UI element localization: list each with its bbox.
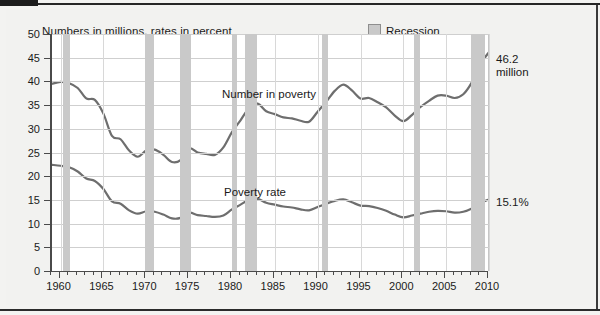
x-tick-minor <box>221 271 222 275</box>
recession-band <box>245 34 257 271</box>
x-tick-major <box>230 271 231 278</box>
recession-band <box>63 34 70 271</box>
gridline <box>52 176 489 177</box>
x-tick-minor <box>93 271 94 275</box>
y-tick <box>44 271 50 272</box>
x-tick-minor <box>290 271 291 275</box>
x-axis-label: 2005 <box>432 280 456 292</box>
line-number-in-poverty <box>52 52 489 162</box>
y-axis-label: 40 <box>14 75 40 87</box>
y-axis-label: 25 <box>14 147 40 159</box>
x-tick-minor <box>136 271 137 275</box>
x-tick-minor <box>239 271 240 275</box>
y-tick <box>44 34 50 35</box>
x-axis-label: 1995 <box>346 280 370 292</box>
y-tick <box>44 81 50 82</box>
end-label-number-unit: million <box>496 66 529 79</box>
x-tick-minor <box>307 271 308 275</box>
x-tick-minor <box>204 271 205 275</box>
x-tick-minor <box>127 271 128 275</box>
y-axis-label: 0 <box>14 265 40 277</box>
gridline <box>52 224 489 225</box>
x-tick-minor <box>436 271 437 275</box>
x-tick-minor <box>384 271 385 275</box>
gridline <box>52 81 489 82</box>
gridline <box>52 34 489 35</box>
page-top-rule <box>38 3 600 5</box>
x-tick-minor <box>299 271 300 275</box>
end-label-number-value: 46.2 <box>496 53 529 66</box>
gridline-vertical <box>361 34 362 271</box>
y-tick <box>44 129 50 130</box>
gridline-vertical <box>275 34 276 271</box>
x-tick-minor <box>376 271 377 275</box>
recession-band <box>322 34 328 271</box>
x-tick-major <box>101 271 102 278</box>
gridline <box>52 58 489 59</box>
x-axis-label: 2010 <box>475 280 499 292</box>
recession-band <box>232 34 237 271</box>
x-tick-minor <box>350 271 351 275</box>
x-axis-label: 1980 <box>218 280 242 292</box>
y-axis-label: 30 <box>14 123 40 135</box>
x-tick-major <box>144 271 145 278</box>
figure-page: Numbers in millions, rates in percent Re… <box>0 0 600 315</box>
x-tick-minor <box>427 271 428 275</box>
y-tick <box>44 247 50 248</box>
x-tick-minor <box>50 271 51 275</box>
x-axis-label: 1970 <box>132 280 156 292</box>
recession-band <box>471 34 485 271</box>
x-tick-minor <box>341 271 342 275</box>
x-tick-major <box>401 271 402 278</box>
gridline <box>52 247 489 248</box>
x-tick-minor <box>76 271 77 275</box>
y-axis-label: 5 <box>14 241 40 253</box>
x-tick-minor <box>67 271 68 275</box>
y-axis-label: 45 <box>14 52 40 64</box>
recession-band <box>145 34 154 271</box>
y-tick <box>44 58 50 59</box>
plot-area <box>50 34 489 271</box>
y-axis-label: 35 <box>14 99 40 111</box>
gridline <box>52 105 489 106</box>
x-tick-minor <box>153 271 154 275</box>
y-tick <box>44 176 50 177</box>
x-tick-major <box>316 271 317 278</box>
x-axis-label: 1975 <box>175 280 199 292</box>
x-tick-minor <box>453 271 454 275</box>
x-axis-label: 1960 <box>46 280 70 292</box>
x-tick-minor <box>196 271 197 275</box>
x-tick-major <box>273 271 274 278</box>
x-tick-major <box>187 271 188 278</box>
end-label-rate: 15.1% <box>496 196 529 209</box>
y-tick <box>44 224 50 225</box>
gridline-vertical <box>403 34 404 271</box>
x-tick-minor <box>119 271 120 275</box>
series-label-number-in-poverty: Number in poverty <box>222 88 316 100</box>
page-bottom-rule <box>0 309 600 311</box>
gridline <box>52 200 489 201</box>
x-axis-line <box>50 271 487 272</box>
x-tick-major <box>59 271 60 278</box>
x-tick-minor <box>393 271 394 275</box>
x-tick-minor <box>247 271 248 275</box>
x-tick-minor <box>179 271 180 275</box>
x-tick-minor <box>367 271 368 275</box>
recession-band <box>180 34 191 271</box>
x-tick-minor <box>324 271 325 275</box>
gridline-vertical <box>446 34 447 271</box>
x-axis-label: 1990 <box>303 280 327 292</box>
x-tick-minor <box>333 271 334 275</box>
gridline <box>52 153 489 154</box>
x-tick-minor <box>161 271 162 275</box>
x-tick-minor <box>264 271 265 275</box>
gridline <box>52 129 489 130</box>
y-tick <box>44 105 50 106</box>
x-tick-minor <box>478 271 479 275</box>
page-top-tab <box>0 0 38 6</box>
x-tick-minor <box>410 271 411 275</box>
x-tick-major <box>487 271 488 278</box>
x-tick-minor <box>281 271 282 275</box>
y-tick <box>44 200 50 201</box>
x-tick-minor <box>84 271 85 275</box>
